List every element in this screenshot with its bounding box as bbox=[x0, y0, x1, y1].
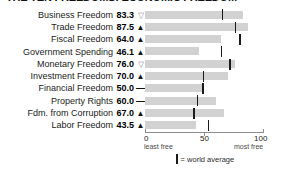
x-axis-label-0: 0 bbox=[144, 134, 148, 143]
table-row: Investment Freedom 70.0 ▲ bbox=[0, 70, 281, 82]
row-score: 43.5 bbox=[116, 121, 134, 130]
world-average-mark bbox=[197, 95, 199, 106]
table-row: Monetary Freedom 76.0 ▽ bbox=[0, 58, 281, 70]
row-plot bbox=[145, 120, 263, 132]
row-label: Property Rights bbox=[0, 97, 113, 106]
x-axis-label-50: 50 bbox=[200, 134, 209, 143]
x-axis-cap-left bbox=[145, 129, 146, 133]
row-score: 70.0 bbox=[116, 72, 134, 81]
row-plot bbox=[145, 107, 263, 119]
table-row: Fiscal Freedom 64.0 ▲ bbox=[0, 34, 281, 46]
row-label: Fiscal Freedom bbox=[0, 35, 113, 44]
table-row: Financial Freedom 50.0 — bbox=[0, 83, 281, 95]
table-row: Trade Freedom 87.5 ▲ bbox=[0, 21, 281, 33]
row-score: 83.3 bbox=[116, 11, 134, 20]
score-bar bbox=[145, 109, 224, 117]
world-average-mark bbox=[202, 83, 204, 94]
row-plot bbox=[145, 95, 263, 107]
score-bar bbox=[145, 72, 228, 80]
row-plot bbox=[145, 70, 263, 82]
row-score: 67.0 bbox=[116, 109, 134, 118]
world-average-mark bbox=[222, 9, 224, 20]
row-label: Trade Freedom bbox=[0, 23, 113, 32]
score-bar bbox=[145, 11, 243, 19]
row-plot bbox=[145, 58, 263, 70]
table-row: Business Freedom 83.3 ▽ bbox=[0, 9, 281, 21]
row-plot bbox=[145, 9, 263, 21]
world-average-mark bbox=[235, 22, 237, 33]
row-label: Financial Freedom bbox=[0, 84, 113, 93]
row-score: 60.0 bbox=[116, 97, 134, 106]
legend-label: = world average bbox=[181, 155, 235, 164]
score-bar bbox=[145, 23, 248, 31]
row-label: Investment Freedom bbox=[0, 72, 113, 81]
row-plot bbox=[145, 46, 263, 58]
world-average-mark bbox=[208, 120, 210, 131]
world-average-mark bbox=[193, 108, 195, 119]
row-score: 87.5 bbox=[116, 23, 134, 32]
table-row: Fdm. from Corruption 67.0 ▲ bbox=[0, 107, 281, 119]
row-score: 64.0 bbox=[116, 35, 134, 44]
row-label: Labor Freedom bbox=[0, 121, 113, 130]
world-average-mark bbox=[239, 34, 241, 45]
row-plot bbox=[145, 34, 263, 46]
row-score: 76.0 bbox=[116, 60, 134, 69]
table-row: Property Rights 60.0 — bbox=[0, 95, 281, 107]
legend: = world average bbox=[176, 154, 234, 164]
economic-freedom-chart: THE TEN FREEDOMS: ECONOMIC FREEDOM Busin… bbox=[0, 0, 281, 170]
table-row: Labor Freedom 43.5 ▲ bbox=[0, 120, 281, 132]
world-average-mark-icon bbox=[176, 154, 178, 164]
row-label: Business Freedom bbox=[0, 11, 113, 20]
page-title: THE TEN FREEDOMS: ECONOMIC FREEDOM bbox=[6, 0, 281, 3]
row-label: Fdm. from Corruption bbox=[0, 109, 113, 118]
x-axis-cap-right bbox=[263, 129, 264, 133]
row-label: Government Spending bbox=[0, 48, 113, 57]
x-axis-caption-most-free: most free bbox=[234, 143, 263, 151]
score-bar bbox=[145, 121, 196, 129]
chart-title-clipped: THE TEN FREEDOMS: ECONOMIC FREEDOM bbox=[6, 0, 281, 3]
x-axis-label-100: 100 bbox=[254, 134, 267, 143]
x-axis-caption-least-free: least free bbox=[144, 143, 173, 151]
row-plot bbox=[145, 21, 263, 33]
row-plot bbox=[145, 83, 263, 95]
world-average-mark bbox=[229, 59, 231, 70]
row-label: Monetary Freedom bbox=[0, 60, 113, 69]
row-score: 46.1 bbox=[116, 48, 134, 57]
world-average-mark bbox=[203, 71, 205, 82]
score-bar bbox=[145, 97, 216, 105]
row-score: 50.0 bbox=[116, 84, 134, 93]
table-row: Government Spending 46.1 ▲ bbox=[0, 46, 281, 58]
score-bar bbox=[145, 35, 221, 43]
world-average-mark bbox=[221, 46, 223, 57]
score-bar bbox=[145, 47, 199, 55]
score-bar bbox=[145, 60, 235, 68]
freedom-rows: Business Freedom 83.3 ▽ Trade Freedom 87… bbox=[0, 9, 281, 132]
score-bar bbox=[145, 84, 204, 92]
